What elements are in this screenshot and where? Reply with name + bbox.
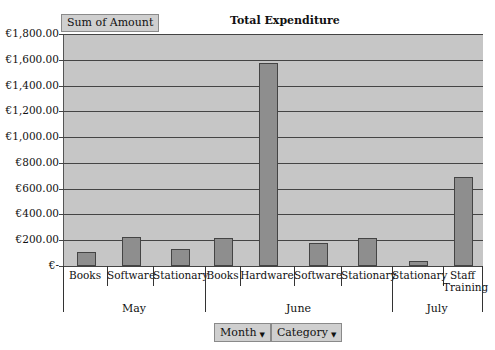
month-field-button[interactable]: Month▼: [214, 323, 271, 342]
y-tick-label: €400.00: [16, 207, 59, 219]
chart-title: Total Expenditure: [230, 14, 340, 27]
y-tick-label: €1,200.00: [6, 104, 59, 116]
y-tick: [59, 86, 64, 87]
gridline: [64, 60, 483, 61]
category-label: Books: [205, 269, 240, 281]
month-label: May: [63, 302, 205, 315]
y-tick-label: €200.00: [16, 233, 59, 245]
category-label: Stationary: [392, 269, 443, 281]
category-label: Software: [107, 269, 153, 281]
y-tick-label: €1,800.00: [6, 27, 59, 39]
y-tick-label: €600.00: [16, 182, 59, 194]
month-field-label: Month: [220, 326, 256, 339]
category-field-button[interactable]: Category▼: [271, 323, 342, 342]
category-label: Books: [63, 269, 107, 281]
gridline: [64, 34, 483, 35]
bar-may-books[interactable]: [77, 252, 96, 266]
y-tick-label: €800.00: [16, 156, 59, 168]
bar-june-books[interactable]: [214, 238, 233, 266]
bar-june-software[interactable]: [309, 243, 328, 266]
category-label: Stationary: [341, 269, 392, 281]
y-tick: [59, 240, 64, 241]
category-label: Hardware: [240, 269, 294, 281]
month-label: June: [205, 302, 392, 315]
y-tick-label: €1,600.00: [6, 53, 59, 65]
dropdown-arrow-icon: ▼: [331, 331, 336, 339]
y-tick: [59, 189, 64, 190]
bar-july-staff-training[interactable]: [454, 177, 473, 266]
dropdown-arrow-icon: ▼: [259, 331, 264, 339]
y-tick: [59, 137, 64, 138]
category-label: Software: [294, 269, 341, 281]
category-field-label: Category: [277, 326, 328, 339]
y-tick: [59, 163, 64, 164]
y-tick-label: €-: [49, 259, 59, 271]
y-tick: [59, 214, 64, 215]
bar-june-hardware[interactable]: [259, 63, 278, 266]
plot-area: [63, 34, 483, 266]
axis-divider: [482, 266, 483, 312]
category-label: Staff Training: [443, 269, 482, 293]
pivot-field-buttons: Month▼ Category▼: [214, 323, 342, 342]
x-axis: BooksSoftwareStationaryMayBooksHardwareS…: [63, 266, 483, 312]
bar-may-software[interactable]: [122, 237, 141, 266]
category-label: Stationary: [153, 269, 205, 281]
y-tick: [59, 60, 64, 61]
sum-of-amount-field-button[interactable]: Sum of Amount: [61, 14, 159, 32]
bar-june-stationary[interactable]: [358, 238, 377, 266]
y-tick: [59, 111, 64, 112]
y-tick: [59, 34, 64, 35]
y-tick-label: €1,400.00: [6, 79, 59, 91]
y-tick-label: €1,000.00: [6, 130, 59, 142]
bar-may-stationary[interactable]: [171, 249, 190, 266]
month-label: July: [392, 302, 482, 315]
